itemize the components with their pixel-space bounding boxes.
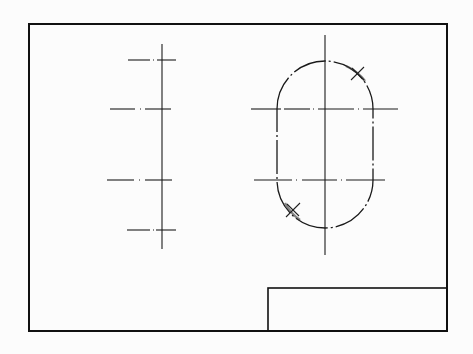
drawing-frame (29, 24, 447, 331)
technical-drawing (0, 0, 473, 354)
right-view (251, 35, 398, 255)
drawing-canvas (0, 0, 473, 354)
title-block (268, 288, 447, 331)
left-view (107, 44, 176, 249)
x-marker-top-right-icon (351, 67, 364, 80)
